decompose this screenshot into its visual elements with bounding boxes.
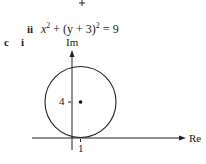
part-ii-label: ii [27, 24, 33, 35]
eq-mid: + (y + 3) [50, 22, 96, 36]
x-tick-label: 1 [78, 143, 84, 154]
circle-equation: x2 + (y + 3)2 = 9 [41, 22, 119, 35]
real-axis-label: Re [189, 133, 201, 144]
eq-rhs: = 9 [100, 22, 119, 36]
imaginary-axis-label: Im [66, 37, 78, 48]
part-i-label: i [21, 37, 24, 48]
y-tick-label: 4 [59, 96, 65, 107]
imaginary-axis-arrow [70, 50, 75, 57]
circle-center-point [79, 100, 83, 104]
part-c-label: c [4, 37, 9, 48]
real-axis-arrow [179, 136, 186, 141]
